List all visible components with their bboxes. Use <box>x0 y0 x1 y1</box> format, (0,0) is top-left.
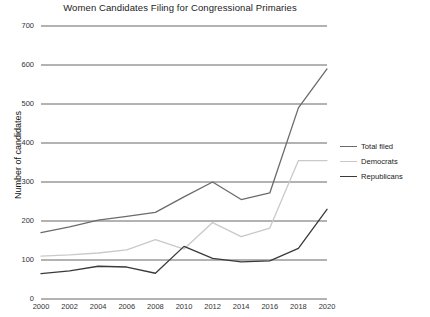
legend-label: Total filed <box>361 142 393 151</box>
y-tick-label: 400 <box>8 139 34 147</box>
x-tick-label: 2016 <box>255 302 285 311</box>
legend-label: Democrats <box>361 157 398 166</box>
series-line <box>41 161 327 257</box>
x-tick-label: 2010 <box>169 302 199 311</box>
legend-item[interactable]: Democrats <box>340 154 430 169</box>
legend-label: Republicans <box>361 172 403 181</box>
chart-container: Women Candidates Filing for Congressiona… <box>0 0 430 317</box>
series-line <box>41 69 327 233</box>
y-tick-label: 200 <box>8 217 34 225</box>
y-tick-label: 300 <box>8 178 34 186</box>
gridlines <box>41 26 327 299</box>
x-tick-label: 2000 <box>26 302 56 311</box>
y-axis-ticks: 0100200300400500600700 <box>4 0 34 317</box>
legend-swatch-icon <box>340 161 357 162</box>
x-tick-label: 2008 <box>140 302 170 311</box>
x-tick-label: 2012 <box>198 302 228 311</box>
x-tick-label: 2018 <box>283 302 313 311</box>
y-tick-label: 700 <box>8 22 34 30</box>
y-tick-label: 500 <box>8 100 34 108</box>
series-line <box>41 209 327 273</box>
legend-swatch-icon <box>340 176 357 177</box>
x-tick-label: 2006 <box>112 302 142 311</box>
legend-item[interactable]: Republicans <box>340 169 430 184</box>
series-lines <box>41 69 327 274</box>
y-tick-label: 100 <box>8 256 34 264</box>
y-tick-label: 600 <box>8 61 34 69</box>
legend-swatch-icon <box>340 146 357 147</box>
x-tick-label: 2002 <box>55 302 85 311</box>
chart-legend: Total filedDemocratsRepublicans <box>340 139 430 184</box>
x-tick-label: 2020 <box>312 302 342 311</box>
x-tick-label: 2014 <box>226 302 256 311</box>
x-tick-label: 2004 <box>83 302 113 311</box>
legend-item[interactable]: Total filed <box>340 139 430 154</box>
